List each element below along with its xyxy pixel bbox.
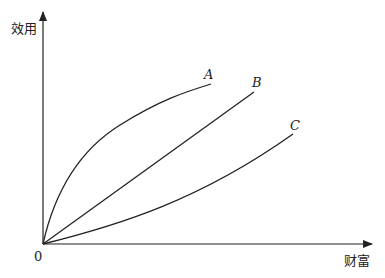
- curve-a-label: A: [204, 67, 213, 82]
- origin-label: 0: [34, 249, 42, 264]
- curve-c-label: C: [290, 118, 300, 133]
- curve-b-label: B: [252, 75, 262, 90]
- x-axis-label: 财富: [344, 250, 370, 269]
- curve-c: [43, 134, 293, 244]
- y-axis-label: 效用: [11, 18, 37, 37]
- utility-wealth-diagram: [0, 0, 385, 278]
